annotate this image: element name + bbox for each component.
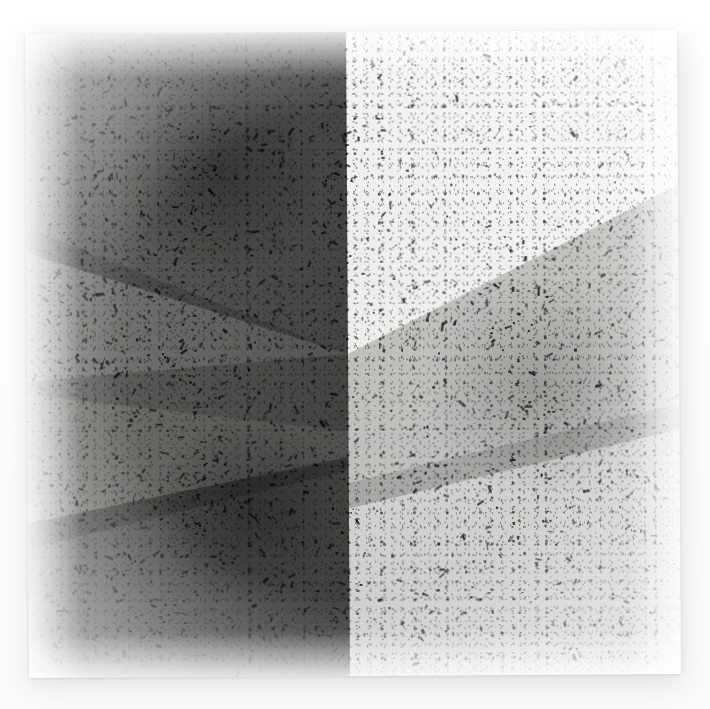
sheet-edge-lighten <box>25 30 681 678</box>
artwork-stage: Untitled (Split Pinwheel) charcoal and g… <box>0 0 710 709</box>
paper-sheet <box>25 30 681 678</box>
